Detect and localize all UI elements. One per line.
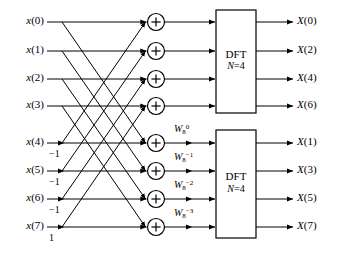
output-label-4: X(1): [297, 136, 317, 147]
gain-label-5: −1: [49, 177, 60, 187]
fft-butterfly-diagram: x(0)x(1)x(2)x(3)x(4)x(5)x(6)x(7)X(0)X(2)…: [0, 0, 337, 253]
dft-block-top-text: DFTN=4: [216, 48, 256, 72]
dft-block-bottom-text: DFTN=4: [216, 170, 256, 194]
input-label-3: x(3): [0, 99, 44, 110]
gain-label-4: −1: [49, 149, 60, 159]
input-label-0: x(0): [0, 15, 44, 26]
dft-title: DFT: [216, 48, 256, 61]
twiddle-label-4: W80: [174, 124, 189, 136]
output-label-7: X(7): [297, 220, 317, 231]
input-label-7: x(7): [0, 220, 44, 231]
output-label-1: X(2): [297, 44, 317, 55]
dft-size: N=4: [216, 183, 256, 195]
input-label-6: x(6): [0, 192, 44, 203]
output-label-6: X(5): [297, 192, 317, 203]
input-label-2: x(2): [0, 72, 44, 83]
gain-label-7: 1: [49, 233, 54, 243]
dft-title: DFT: [216, 170, 256, 183]
input-label-1: x(1): [0, 44, 44, 55]
dft-size: N=4: [216, 60, 256, 72]
gain-label-6: −1: [49, 205, 60, 215]
twiddle-label-6: W8−2: [174, 180, 193, 192]
input-label-5: x(5): [0, 164, 44, 175]
output-label-0: X(0): [297, 15, 317, 26]
signal-flow-graph: [0, 0, 337, 253]
output-label-3: X(6): [297, 99, 317, 110]
output-label-2: X(4): [297, 72, 317, 83]
input-label-4: x(4): [0, 136, 44, 147]
twiddle-label-7: W8−3: [174, 208, 193, 220]
output-label-5: X(3): [297, 164, 317, 175]
twiddle-label-5: W8−1: [174, 152, 193, 164]
